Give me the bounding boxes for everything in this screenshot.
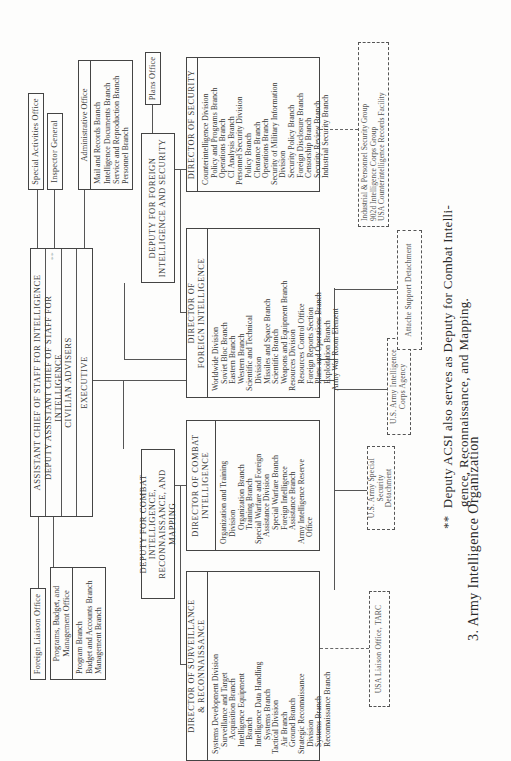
foreign-liaison-label: Foreign Liaison Office	[31, 589, 45, 679]
usa-liaison-office-tarc[interactable]: USA Liaison Office, TARC	[369, 591, 390, 707]
director-of-surveillance-reconnaissance[interactable]: DIRECTOR OF SURVEILLANCE & RECONNAISSANC…	[186, 571, 320, 761]
civilian-advisers[interactable]: CIVILIAN ADVISERS	[62, 249, 77, 516]
connector-foreign-directors	[180, 170, 181, 313]
security-groups-list: Industrial & Personnel Security Group 90…	[359, 43, 389, 226]
org-unit-item: Office	[306, 427, 315, 544]
footnote-marker: **	[49, 252, 59, 260]
footnote-mark: **	[440, 515, 455, 529]
connector-foreign-liaison	[38, 517, 39, 588]
org-unit-item: Army War Room Element	[332, 235, 341, 391]
connector-programs-budget	[53, 517, 54, 567]
deputy-combat-title: DEPUTY FOR COMBAT INTELLIGENCE, RECONNAI…	[142, 450, 174, 598]
director-security-list: Counterintelligence DivisionPolicy and P…	[198, 58, 335, 191]
org-chart: ASSISTANT CHIEF OF STAFF FOR INTELLIGENC…	[0, 0, 511, 761]
footnote-line-2: gence, Reconnaissance, and Mapping.	[456, 205, 472, 529]
special-activities-office[interactable]: Special Activities Office	[28, 93, 44, 190]
branch-item: Intelligence Documents Branch	[103, 66, 112, 184]
deputy-acsi-row[interactable]: DEPUTY ASSISTANT CHIEF OF STAFF FOR INTE…	[46, 249, 62, 516]
inspector-general-office[interactable]: Inspector General	[47, 113, 63, 190]
branch-item: Service and Reproduction Branch	[112, 66, 121, 184]
administrative-branches: Mail and Records Branch Intelligence Doc…	[91, 61, 132, 189]
special-security-detachment[interactable]: U.S. Army Special Security Detachment	[367, 446, 395, 530]
org-unit-item: Reconnaissance Branch	[324, 578, 333, 754]
connector-deputy-foreign-left	[124, 283, 125, 360]
branch-item: Budget and Accounts Branch	[85, 573, 94, 674]
executive[interactable]: EXECUTIVE	[77, 249, 92, 516]
intelligence-corps-agency-label: U.S. Army Intelligence Corps Agency	[388, 339, 410, 434]
director-combat-title: DIRECTOR OF COMBAT INTELLIGENCE	[187, 421, 216, 550]
connector-deputy-combat-left	[123, 381, 124, 449]
programs-budget-office[interactable]: Programs, Budget, and Management Office …	[50, 567, 106, 680]
connector-special-security-det	[334, 490, 367, 491]
branch-item: Personnel Branch	[121, 66, 130, 184]
director-of-foreign-intelligence[interactable]: DIRECTOR OF FOREIGN INTELLIGENCE Worldwi…	[186, 228, 320, 398]
special-activities-label: Special Activities Office	[29, 94, 43, 189]
footnote: ** Deputy ACSI also serves as Deputy for…	[440, 205, 472, 529]
director-foreign-title: DIRECTOR OF FOREIGN INTELLIGENCE	[187, 229, 208, 397]
deputy-combat-intelligence[interactable]: DEPUTY FOR COMBAT INTELLIGENCE, RECONNAI…	[141, 449, 175, 599]
director-security-title: DIRECTOR OF SECURITY	[187, 58, 198, 191]
attache-support-detachment[interactable]: Attache Support Detachment	[397, 230, 422, 350]
director-surveillance-title: DIRECTOR OF SURVEILLANCE & RECONNAISSANC…	[187, 572, 208, 760]
director-surveillance-list: Systems Development DivisionSurveillance…	[208, 572, 336, 760]
connector-administrative	[84, 190, 85, 248]
security-group-item: USA Counterintelligence Records Facility	[378, 48, 387, 221]
connector-plans-office-h	[152, 105, 153, 133]
scanned-page: ASSISTANT CHIEF OF STAFF FOR INTELLIGENC…	[0, 0, 511, 761]
connector-inspector-general	[54, 190, 55, 248]
inspector-general-label: Inspector General	[48, 114, 62, 189]
deputy-foreign-title: DEPUTY FOR FOREIGN INTELLIGENCE AND SECU…	[142, 134, 174, 282]
director-of-combat-intelligence[interactable]: DIRECTOR OF COMBAT INTELLIGENCE Organiza…	[186, 420, 320, 551]
administrative-office-title: Administrative Office	[79, 61, 91, 189]
branch-item: Program Branch	[75, 573, 84, 674]
special-security-detachment-label: U.S. Army Special Security Detachment	[368, 447, 394, 529]
branch-item: Management Branch	[94, 573, 103, 674]
tarc-label: USA Liaison Office, TARC	[370, 592, 389, 706]
foreign-liaison-office[interactable]: Foreign Liaison Office	[30, 588, 46, 680]
branch-item: Mail and Records Branch	[93, 66, 102, 184]
connector-executive-to-deputy-foreign	[93, 380, 94, 381]
connector-combat-directors	[180, 486, 181, 665]
plans-office-label: Plans Office	[146, 53, 160, 104]
director-foreign-list: Worldwide DivisionSoviet Bloc BranchEast…	[208, 229, 345, 397]
deputy-foreign-intelligence-security[interactable]: DEPUTY FOR FOREIGN INTELLIGENCE AND SECU…	[141, 133, 175, 283]
acsi-header-group: ASSISTANT CHIEF OF STAFF FOR INTELLIGENC…	[30, 248, 93, 517]
programs-budget-branches: Program Branch Budget and Accounts Branc…	[73, 568, 105, 679]
director-of-security[interactable]: DIRECTOR OF SECURITY Counterintelligence…	[186, 57, 320, 192]
attache-support-label: Attache Support Detachment	[398, 231, 421, 349]
security-groups-box[interactable]: Industrial & Personnel Security Group 90…	[358, 42, 389, 227]
plans-office[interactable]: Plans Office	[145, 52, 161, 105]
footnote-line-1: ** Deputy ACSI also serves as Deputy for…	[440, 205, 456, 529]
footnote-text-1: Deputy ACSI also serves as Deputy for Co…	[440, 205, 455, 508]
director-combat-list: Organization and TrainingDivisionOrganiz…	[216, 421, 319, 550]
org-unit-item: Industrial Security Branch	[322, 64, 331, 185]
deputy-acsi-title: DEPUTY ASSISTANT CHIEF OF STAFF FOR INTE…	[44, 263, 63, 513]
intelligence-corps-agency[interactable]: U.S. Army Intelligence Corps Agency	[387, 338, 411, 435]
connector-special-activities	[37, 190, 38, 248]
programs-budget-title: Programs, Budget, and Management Office	[51, 568, 73, 679]
administrative-office[interactable]: Administrative Office Mail and Records B…	[78, 60, 133, 190]
